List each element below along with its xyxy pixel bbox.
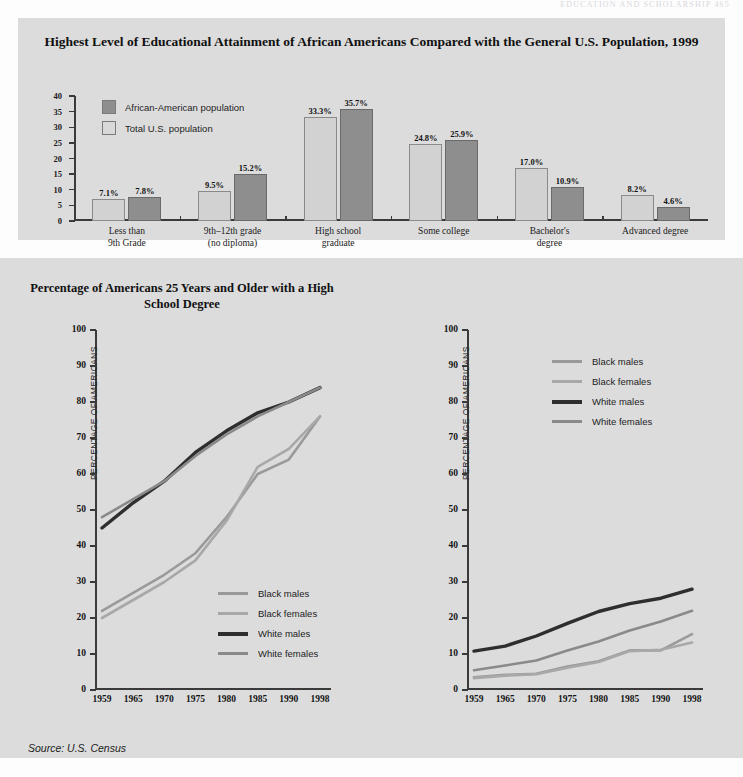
bar-value-label: 10.9%: [556, 176, 579, 186]
line-y-tick: [462, 365, 468, 366]
bar-value-label: 4.6%: [664, 196, 683, 206]
bar[interactable]: 7.1%: [92, 199, 125, 221]
bar-category-label: High school graduate: [283, 226, 393, 250]
bar[interactable]: 8.2%: [621, 195, 654, 221]
line-y-tick: [90, 653, 96, 654]
line-y-tick: [462, 473, 468, 474]
line-y-tick-label: 20: [60, 612, 86, 622]
bar[interactable]: 35.7%: [340, 109, 373, 221]
line-legend-swatch: [552, 360, 582, 363]
college-chart: Percentage of Americans 25 Years and Old…: [372, 258, 743, 758]
line-y-tick-label: 80: [60, 396, 86, 406]
line-y-tick: [90, 617, 96, 618]
line-series: [474, 634, 692, 677]
line-legend-label: White males: [592, 396, 644, 407]
line-y-tick: [462, 689, 468, 690]
line-legend-swatch: [218, 612, 248, 615]
line-legend-swatch: [218, 592, 248, 595]
bar-category-label: Bachelor's degree: [494, 226, 604, 250]
line-y-tick-label: 10: [432, 648, 458, 658]
line-legend-label: Black males: [592, 356, 643, 367]
line-y-tick: [90, 581, 96, 582]
line-y-tick: [462, 437, 468, 438]
high-school-chart-title: Percentage of Americans 25 Years and Old…: [12, 280, 352, 313]
bar-y-tick-label: 20: [40, 154, 62, 164]
college-legend: Black malesBlack femalesWhite malesWhite…: [552, 356, 652, 436]
source-note: Source: U.S. Census: [28, 742, 126, 754]
bar[interactable]: 10.9%: [551, 187, 584, 221]
bar[interactable]: 15.2%: [234, 174, 267, 222]
line-y-tick: [462, 329, 468, 330]
bar[interactable]: 33.3%: [304, 117, 337, 221]
line-y-tick: [90, 545, 96, 546]
running-head: EDUCATION AND SCHOLARSHIP 465: [430, 0, 730, 12]
line-y-tick: [90, 509, 96, 510]
line-y-tick-label: 90: [60, 360, 86, 370]
line-x-tick-label: 1970: [527, 694, 546, 704]
line-x-tick-label: 1980: [589, 694, 608, 704]
line-series: [474, 589, 692, 651]
line-legend-label: White females: [258, 648, 318, 659]
bar-group: 9.5%15.2%9th–12th grade (no diploma): [180, 96, 286, 221]
line-x-tick-label: 1980: [217, 694, 236, 704]
bar-y-tick-label: 35: [40, 107, 62, 117]
bar-value-label: 9.5%: [205, 180, 224, 190]
line-x-tick-label: 1975: [558, 694, 577, 704]
line-legend-item: Black males: [552, 356, 652, 367]
line-legend-item: White males: [218, 628, 318, 639]
line-x-tick-label: 1990: [651, 694, 670, 704]
line-x-tick-label: 1970: [155, 694, 174, 704]
bar-group-tick: [180, 216, 181, 221]
bar[interactable]: 7.8%: [128, 197, 161, 221]
bar-y-tick-label: 0: [40, 216, 62, 226]
bar-group: 24.8%25.9%Some college: [391, 96, 497, 221]
line-series: [474, 642, 692, 678]
line-y-tick-label: 0: [60, 684, 86, 694]
bar-y-tick-label: 10: [40, 185, 62, 195]
line-y-tick: [462, 509, 468, 510]
bar[interactable]: 9.5%: [198, 191, 231, 221]
line-legend-swatch: [218, 652, 248, 655]
bar-group: 33.3%35.7%High school graduate: [285, 96, 391, 221]
line-y-tick-label: 70: [432, 432, 458, 442]
line-x-tick-label: 1959: [465, 694, 484, 704]
line-y-tick: [90, 401, 96, 402]
bar-value-label: 33.3%: [308, 106, 331, 116]
high-school-legend: Black malesBlack femalesWhite malesWhite…: [218, 588, 318, 668]
bar-value-label: 35.7%: [344, 98, 367, 108]
line-legend-label: White females: [592, 416, 652, 427]
line-legend-label: Black males: [258, 588, 309, 599]
line-legend-swatch: [552, 420, 582, 423]
line-y-tick: [462, 401, 468, 402]
bar-group-tick: [285, 216, 286, 221]
figure-page: EDUCATION AND SCHOLARSHIP 465 Highest Le…: [0, 0, 743, 777]
line-y-tick-label: 0: [432, 684, 458, 694]
bar-y-tick-label: 30: [40, 122, 62, 132]
line-y-tick: [462, 581, 468, 582]
bar-group-tick: [391, 216, 392, 221]
line-y-tick-label: 30: [432, 576, 458, 586]
bar-chart-panel: Highest Level of Educational Attainment …: [18, 18, 725, 240]
bar-y-tick-label: 15: [40, 169, 62, 179]
bar[interactable]: 17.0%: [515, 168, 548, 221]
line-y-tick-label: 20: [432, 612, 458, 622]
line-x-tick-label: 1975: [186, 694, 205, 704]
line-y-tick-label: 50: [432, 504, 458, 514]
line-y-tick: [90, 329, 96, 330]
bar-plot-area: 05101520253035407.1%7.8%Less than 9th Gr…: [74, 96, 708, 221]
line-y-tick: [462, 653, 468, 654]
line-y-tick-label: 40: [60, 540, 86, 550]
bar[interactable]: 24.8%: [409, 144, 442, 222]
line-y-tick: [462, 545, 468, 546]
line-y-tick: [90, 689, 96, 690]
bar[interactable]: 4.6%: [657, 207, 690, 221]
line-y-tick: [90, 365, 96, 366]
bar[interactable]: 25.9%: [445, 140, 478, 221]
line-y-tick: [90, 473, 96, 474]
bar-y-tick-label: 40: [40, 91, 62, 101]
line-legend-item: White females: [218, 648, 318, 659]
bar-value-label: 17.0%: [520, 157, 543, 167]
bar-value-label: 24.8%: [414, 133, 437, 143]
bar-chart-title: Highest Level of Educational Attainment …: [18, 34, 725, 51]
high-school-chart: Percentage of Americans 25 Years and Old…: [0, 258, 371, 758]
